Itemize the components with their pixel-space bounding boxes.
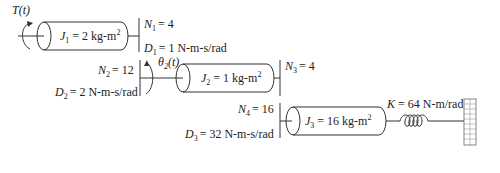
theta2-label: θ2(t): [158, 55, 179, 71]
spring-icon: [400, 115, 428, 126]
inertia-j1: J1= 2 kg-m2: [37, 22, 128, 50]
d3-label: D3= 32 N-m-s/rad: [184, 127, 274, 143]
k-label: K= 64 N-m/rad: [386, 97, 463, 111]
n2-label: N2= 12: [97, 63, 134, 79]
n3-label: N3= 4: [284, 59, 315, 75]
j1-label: J1= 2 kg-m2: [60, 28, 120, 45]
j3-label: J3= 16 kg-m2: [305, 113, 371, 130]
j2-label: J2= 1 kg-m2: [201, 70, 261, 87]
d1-label: D1= 1 N-m-s/rad: [143, 41, 227, 57]
n4-label: N4= 16: [237, 102, 274, 118]
arrowhead-icon: [27, 21, 33, 27]
torque-input: T(t): [12, 3, 33, 49]
n1-label: N1= 4: [143, 17, 174, 33]
wall-hatch-icon: [464, 99, 476, 145]
spring-k: K= 64 N-m/rad: [386, 97, 464, 126]
inertia-j2: J2= 1 kg-m2: [176, 64, 274, 92]
gear-train-diagram: T(t) J1= 2 kg-m2 N1= 4 D1= 1 N-m-s/rad N…: [0, 0, 500, 173]
torque-label: T(t): [12, 3, 30, 17]
inertia-j3: J3= 16 kg-m2: [286, 107, 386, 135]
d2-label: D2= 2 N-m-s/rad: [54, 85, 138, 101]
arrowhead-icon: [144, 60, 149, 66]
